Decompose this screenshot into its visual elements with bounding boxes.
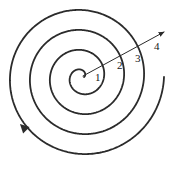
- turn-label-4: 4: [154, 41, 160, 52]
- turn-label-1: 1: [95, 72, 101, 83]
- turn-label-3: 3: [135, 53, 141, 64]
- spiral-drawing-canvas: [0, 0, 194, 182]
- spiral-curve: [10, 10, 164, 154]
- turn-label-2: 2: [117, 60, 123, 71]
- spiral-figure: 1 2 3 4: [0, 0, 194, 182]
